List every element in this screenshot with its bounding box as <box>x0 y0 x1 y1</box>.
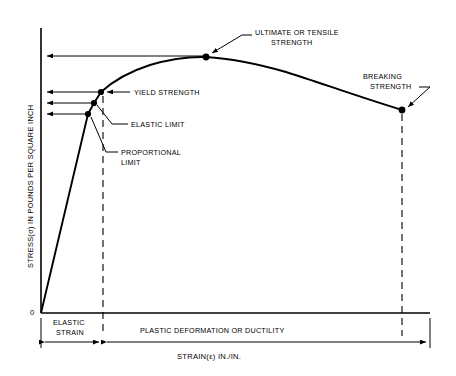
leader-proportional-limit <box>91 117 118 152</box>
point-elastic-limit <box>91 100 97 106</box>
leader-elastic-limit <box>97 105 128 124</box>
y-axis-label: STRESS(σ) IN POUNDS PER SQUARE INCH <box>26 105 35 268</box>
x-axis-label: STRAIN(ε) IN./IN. <box>177 352 241 362</box>
breaking-strength-label-line1: BREAKING <box>363 72 402 82</box>
stress-strain-curve-path <box>41 57 402 313</box>
yield-strength-label: YIELD STRENGTH <box>134 88 200 98</box>
proportional-limit-label-line1: PROPORTIONAL <box>121 148 181 158</box>
origin-label: 0 <box>30 308 34 317</box>
elastic-strain-label-line2: STRAIN <box>56 328 84 338</box>
elastic-limit-label: ELASTIC LIMIT <box>131 120 185 130</box>
point-breaking-strength <box>399 107 406 114</box>
plastic-deformation-label: PLASTIC DEFORMATION OR DUCTILITY <box>140 326 284 336</box>
proportional-limit-label-line2: LIMIT <box>121 158 141 168</box>
ultimate-strength-label-line2: STRENGTH <box>271 38 313 48</box>
ultimate-strength-label-line1: ULTIMATE OR TENSILE <box>255 28 339 38</box>
breaking-strength-label-line2: STRENGTH <box>370 82 412 92</box>
elastic-strain-label-line1: ELASTIC <box>53 318 85 328</box>
stress-strain-diagram: STRESS(σ) IN POUNDS PER SQUARE INCH 0 UL… <box>0 0 456 376</box>
point-yield-strength <box>98 89 104 95</box>
point-ultimate-strength <box>203 54 210 61</box>
point-proportional-limit <box>85 111 91 117</box>
leader-ultimate <box>212 35 242 53</box>
